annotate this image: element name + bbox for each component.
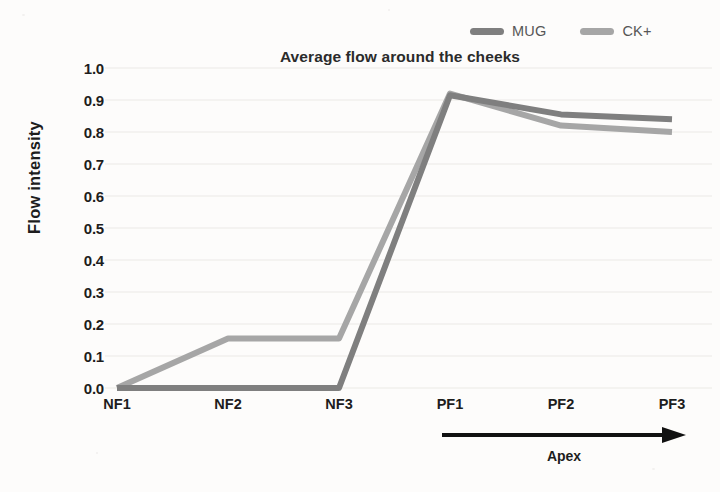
apex-label: Apex	[440, 448, 688, 464]
series-line-mug	[117, 95, 672, 388]
plot-area	[0, 0, 720, 492]
series-lines	[117, 94, 672, 388]
chart-figure: MUG CK+ Average flow around the cheeks F…	[0, 0, 720, 492]
apex-arrow-icon	[440, 424, 688, 446]
apex-annotation: Apex	[440, 424, 688, 472]
